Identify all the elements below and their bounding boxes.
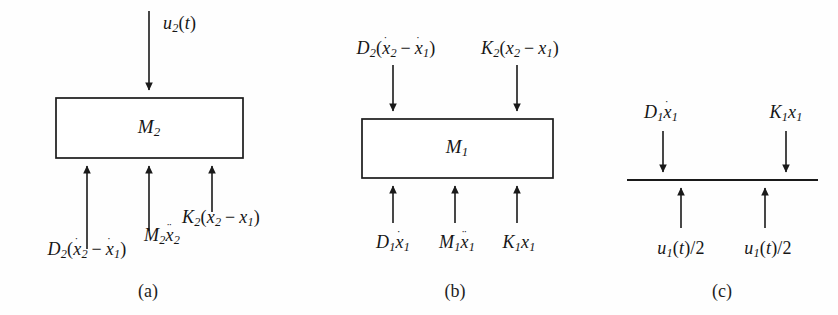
mass-label-m2: M2 (138, 116, 160, 141)
force-label-b-d2: D2(x˙2 − x˙1) (357, 39, 436, 60)
caption-b: (b) (445, 281, 466, 302)
force-label-b-k2: K2(x2 − x1) (481, 39, 559, 60)
mass-label-m2-sub: 2 (154, 124, 160, 139)
mass-label-m1-sub: 1 (462, 144, 468, 159)
force-label-c-d1: D1x˙1 (644, 103, 678, 124)
force-label-b-m1a: M1ẍ1 (439, 233, 475, 254)
caption-c: (c) (712, 281, 732, 302)
force-label-a-d2: D2(x˙2 − x˙1) (48, 240, 127, 261)
force-label-c-u1-left: u1(t)/2 (657, 239, 705, 260)
force-label-b-d1: D1x˙1 (376, 233, 410, 254)
mass-label-m1-base: M (446, 136, 462, 157)
force-label-b-k1: K1x1 (502, 233, 535, 254)
force-label-a-m2a: M2ẍ2 (144, 226, 180, 247)
mass-label-m1: M1 (446, 136, 468, 161)
force-label-c-k1: K1x1 (769, 103, 802, 124)
panel-c-graphics (627, 131, 818, 228)
force-label-u2t: u2(t) (163, 14, 196, 35)
force-label-a-k2: K2(x2 − x1) (182, 208, 260, 229)
free-body-diagram-figure: M2 u2(t) D2(x˙2 − x˙1) M2ẍ2 K2(x2 − x1)… (0, 0, 838, 315)
caption-a: (a) (138, 281, 158, 302)
mass-label-m2-base: M (138, 116, 154, 137)
force-label-c-u1-right: u1(t)/2 (744, 239, 792, 260)
